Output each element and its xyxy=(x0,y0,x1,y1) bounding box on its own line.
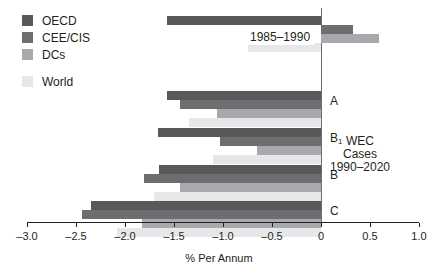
bar-world-b1 xyxy=(213,155,321,164)
bar-oecd-c xyxy=(91,201,321,210)
x-tick-label-4: –1.0 xyxy=(203,230,243,243)
period-annotation: 1985–1990 xyxy=(246,29,314,45)
plot-area xyxy=(27,8,419,223)
x-tick-label-6: 0 xyxy=(301,230,341,243)
x-tick-8 xyxy=(419,223,420,227)
bar-cee-cis-b1 xyxy=(220,137,321,146)
bar-oecd-b xyxy=(159,165,321,174)
wec-note-line3: 1990–2020 xyxy=(330,161,390,174)
x-tick-6 xyxy=(321,223,322,227)
bar-cee-cis-b xyxy=(144,174,321,183)
x-tick-2 xyxy=(125,223,126,227)
bar-cee-cis-c xyxy=(82,210,321,219)
x-tick-label-7: 0.5 xyxy=(350,230,390,243)
bar-world-b xyxy=(154,192,321,201)
x-tick-4 xyxy=(223,223,224,227)
bar-dcs-a xyxy=(217,109,321,118)
bar-cee-cis-a xyxy=(180,100,321,109)
group-label-c: C xyxy=(330,204,339,218)
bar-world-a xyxy=(189,118,321,127)
x-tick-7 xyxy=(370,223,371,227)
bar-cee-cis-1985-1990 xyxy=(321,25,353,34)
bar-oecd-1985-1990 xyxy=(167,16,321,25)
x-tick-5 xyxy=(272,223,273,227)
x-tick-label-2: –2.0 xyxy=(105,230,145,243)
x-tick-label-8: 1.0 xyxy=(399,230,438,243)
bar-chart-figure: OECD CEE/CIS DCs World –3.0–2.5–2.0–1.5–… xyxy=(0,0,438,278)
bar-dcs-b1 xyxy=(257,146,321,155)
bar-dcs-b xyxy=(180,183,321,192)
bar-oecd-a xyxy=(167,91,321,100)
bar-dcs-c xyxy=(142,219,321,228)
x-tick-1 xyxy=(76,223,77,227)
x-tick-3 xyxy=(174,223,175,227)
bar-dcs-1985-1990 xyxy=(321,34,379,43)
x-tick-0 xyxy=(27,223,28,227)
x-tick-label-1: –2.5 xyxy=(56,230,96,243)
x-axis-label: % Per Annum xyxy=(0,252,438,264)
bar-oecd-b1 xyxy=(158,128,321,137)
group-label-a: A xyxy=(330,94,338,108)
x-tick-label-3: –1.5 xyxy=(154,230,194,243)
wec-cases-note: WEC Cases 1990–2020 xyxy=(330,135,390,174)
x-tick-label-0: –3.0 xyxy=(7,230,47,243)
x-tick-label-5: –0.5 xyxy=(252,230,292,243)
